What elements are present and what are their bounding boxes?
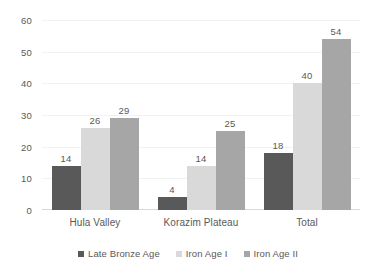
y-tick-label: 50 [21,46,32,57]
bar-late-bronze-age[interactable] [52,166,81,210]
bar-value-label: 25 [216,118,245,129]
legend-swatch-icon [176,251,182,257]
bar-iron-age-ii[interactable] [322,39,351,210]
category-label-korazim-plateau: Korazim Plateau [148,214,254,234]
y-tick-label: 10 [21,173,32,184]
bar-value-label: 18 [264,140,293,151]
bar-iron-age-ii[interactable] [110,118,139,210]
bar-group-korazim-plateau: 4 14 25 [148,20,254,210]
bar-iron-age-i[interactable] [293,83,322,210]
category-label-total: Total [254,214,360,234]
bar-slot: 14 [187,20,216,210]
bar-slot: 4 [158,20,187,210]
bar-slot: 40 [293,20,322,210]
x-axis-category-labels: Hula Valley Korazim Plateau Total [42,214,360,234]
legend-swatch-icon [78,251,84,257]
y-tick-label: 40 [21,78,32,89]
bar-iron-age-ii[interactable] [216,131,245,210]
y-tick-label: 30 [21,110,32,121]
legend-label: Late Bronze Age [88,248,160,259]
bar-value-label: 26 [81,115,110,126]
bar-value-label: 14 [52,153,81,164]
bar-slot: 25 [216,20,245,210]
bar-late-bronze-age[interactable] [158,197,187,210]
bar-value-label: 14 [187,153,216,164]
bar-slot: 18 [264,20,293,210]
legend: Late Bronze Age Iron Age I Iron Age II [0,248,376,259]
bar-group-hula-valley: 14 26 29 [42,20,148,210]
y-tick-label: 0 [27,205,32,216]
bar-slot: 14 [52,20,81,210]
legend-item-late-bronze-age[interactable]: Late Bronze Age [78,248,160,259]
bar-value-label: 40 [293,70,322,81]
bar-chart: 60 50 40 30 20 10 0 14 26 29 4 [0,0,376,271]
y-tick-label: 20 [21,141,32,152]
legend-item-iron-age-ii[interactable]: Iron Age II [244,248,298,259]
legend-item-iron-age-i[interactable]: Iron Age I [176,248,228,259]
category-label-hula-valley: Hula Valley [42,214,148,234]
bar-groups: 14 26 29 4 14 25 [42,20,360,210]
bar-iron-age-i[interactable] [81,128,110,210]
bar-slot: 26 [81,20,110,210]
bar-iron-age-i[interactable] [187,166,216,210]
y-axis: 60 50 40 30 20 10 0 [0,20,38,210]
bar-late-bronze-age[interactable] [264,153,293,210]
bar-group-total: 18 40 54 [254,20,360,210]
bar-value-label: 29 [110,105,139,116]
bar-value-label: 4 [158,184,187,195]
legend-swatch-icon [244,251,250,257]
legend-label: Iron Age II [254,248,298,259]
y-tick-label: 60 [21,15,32,26]
legend-label: Iron Age I [186,248,228,259]
bar-slot: 29 [110,20,139,210]
bar-slot: 54 [322,20,351,210]
bar-value-label: 54 [322,26,351,37]
